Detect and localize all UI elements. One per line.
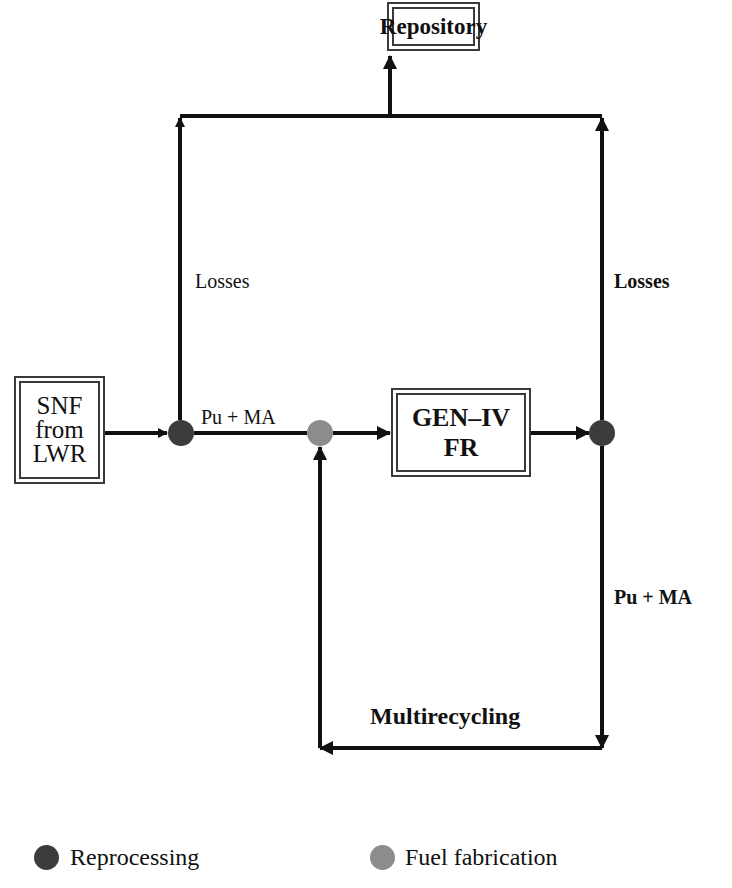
flow-connectors bbox=[0, 0, 732, 888]
reprocessing-node-1 bbox=[168, 420, 194, 446]
snf-box: SNF from LWR bbox=[14, 376, 105, 484]
reactor-label-line-2: FR bbox=[444, 433, 479, 463]
snf-label-line-2: from bbox=[35, 418, 84, 442]
reactor-label-line-1: GEN–IV bbox=[412, 403, 510, 433]
multirecycling-label: Multirecycling bbox=[370, 704, 520, 728]
pu-ma-main-label: Pu + MA bbox=[201, 407, 276, 427]
losses-left-label: Losses bbox=[195, 271, 249, 291]
fuel-fabrication-legend-dot bbox=[370, 845, 395, 870]
fuel-fabrication-node bbox=[307, 420, 333, 446]
losses-right-label: Losses bbox=[614, 271, 670, 291]
reprocessing-legend-label: Reprocessing bbox=[70, 845, 199, 869]
fuel-fabrication-legend-label: Fuel fabrication bbox=[405, 845, 558, 869]
reactor-box: GEN–IV FR bbox=[391, 388, 531, 477]
reprocessing-node-2 bbox=[589, 420, 615, 446]
snf-label-line-3: LWR bbox=[33, 442, 87, 466]
pu-ma-right-label: Pu + MA bbox=[614, 587, 692, 607]
repository-box: Repository bbox=[387, 2, 480, 51]
snf-label-line-1: SNF bbox=[37, 394, 83, 418]
repository-label: Repository bbox=[380, 14, 487, 40]
reprocessing-legend-dot bbox=[34, 845, 59, 870]
